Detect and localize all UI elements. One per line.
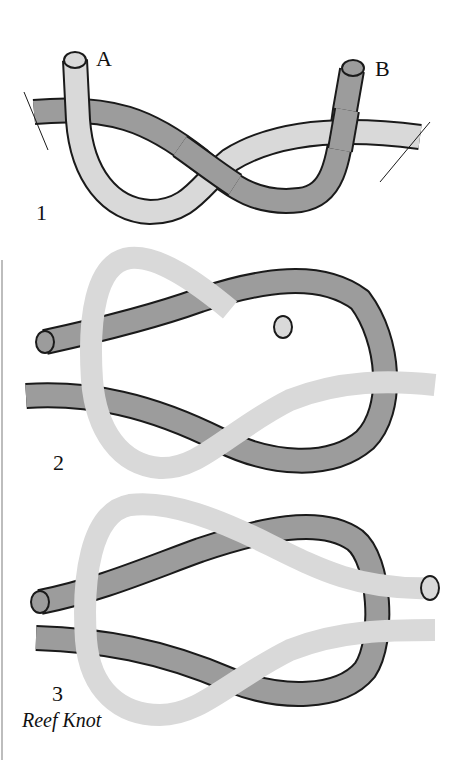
end-label-a: A bbox=[96, 46, 112, 72]
figure-caption: Reef Knot bbox=[22, 709, 101, 732]
reef-knot-illustration: .dk{fill:none;stroke:#9c9c9c;stroke-widt… bbox=[0, 0, 464, 769]
step-1-diagram bbox=[24, 52, 430, 212]
step-number-3: 3 bbox=[52, 681, 63, 707]
step-number-1: 1 bbox=[36, 200, 47, 226]
step-number-2: 2 bbox=[53, 450, 64, 476]
end-label-b: B bbox=[375, 56, 390, 82]
step-2-diagram bbox=[26, 258, 435, 468]
step-3-diagram bbox=[31, 504, 439, 715]
